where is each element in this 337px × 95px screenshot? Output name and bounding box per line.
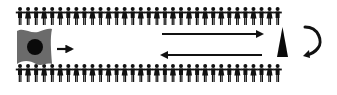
- woman-figure-icon: [56, 64, 64, 82]
- woman-figure-icon: [217, 64, 225, 82]
- man-figure-icon: [145, 64, 153, 82]
- man-figure-icon: [241, 7, 249, 25]
- woman-figure-icon: [137, 64, 145, 82]
- man-figure-icon: [129, 7, 137, 25]
- woman-figure-icon: [104, 7, 112, 25]
- man-figure-icon: [257, 7, 265, 25]
- woman-figure-icon: [40, 64, 48, 82]
- cell-with-nucleus-icon: [17, 29, 52, 65]
- woman-figure-icon: [120, 64, 128, 82]
- woman-figure-icon: [201, 64, 209, 82]
- man-figure-icon: [161, 64, 169, 82]
- bottom-row-of-figures: [16, 64, 282, 82]
- man-figure-icon: [129, 64, 137, 82]
- man-figure-icon: [241, 64, 249, 82]
- channel-diagram: [0, 0, 337, 95]
- woman-figure-icon: [24, 64, 32, 82]
- woman-figure-icon: [185, 7, 193, 25]
- man-figure-icon: [161, 7, 169, 25]
- woman-figure-icon: [249, 64, 257, 82]
- woman-figure-icon: [153, 64, 161, 82]
- woman-figure-icon: [104, 64, 112, 82]
- man-figure-icon: [48, 64, 56, 82]
- woman-figure-icon: [72, 7, 80, 25]
- woman-figure-icon: [169, 7, 177, 25]
- man-figure-icon: [48, 7, 56, 25]
- woman-figure-icon: [24, 7, 32, 25]
- man-figure-icon: [16, 64, 24, 82]
- man-figure-icon: [193, 7, 201, 25]
- woman-figure-icon: [169, 64, 177, 82]
- man-figure-icon: [80, 7, 88, 25]
- man-figure-icon: [273, 64, 281, 82]
- man-figure-icon: [145, 7, 153, 25]
- man-figure-icon: [96, 7, 104, 25]
- top-row-of-figures: [16, 7, 282, 25]
- man-figure-icon: [177, 64, 185, 82]
- man-figure-icon: [177, 7, 185, 25]
- man-figure-icon: [209, 64, 217, 82]
- man-figure-icon: [64, 64, 72, 82]
- man-figure-icon: [225, 7, 233, 25]
- man-figure-icon: [32, 64, 40, 82]
- man-figure-icon: [112, 7, 120, 25]
- woman-figure-icon: [249, 7, 257, 25]
- arrows-group: [57, 34, 262, 55]
- woman-figure-icon: [72, 64, 80, 82]
- woman-figure-icon: [120, 7, 128, 25]
- man-figure-icon: [257, 64, 265, 82]
- woman-figure-icon: [201, 7, 209, 25]
- man-figure-icon: [209, 7, 217, 25]
- woman-figure-icon: [88, 64, 96, 82]
- man-figure-icon: [193, 64, 201, 82]
- man-figure-icon: [112, 64, 120, 82]
- woman-figure-icon: [40, 7, 48, 25]
- woman-figure-icon: [137, 7, 145, 25]
- woman-figure-icon: [265, 7, 273, 25]
- curved-return-arrow-icon: [303, 27, 320, 58]
- man-figure-icon: [80, 64, 88, 82]
- woman-figure-icon: [153, 7, 161, 25]
- man-figure-icon: [273, 7, 281, 25]
- woman-figure-icon: [185, 64, 193, 82]
- woman-figure-icon: [56, 7, 64, 25]
- woman-figure-icon: [265, 64, 273, 82]
- man-figure-icon: [225, 64, 233, 82]
- woman-figure-icon: [233, 7, 241, 25]
- woman-figure-icon: [233, 64, 241, 82]
- woman-figure-icon: [88, 7, 96, 25]
- woman-figure-icon: [217, 7, 225, 25]
- triangle-marker-icon: [277, 27, 288, 57]
- diagram-canvas: [0, 0, 337, 95]
- man-figure-icon: [32, 7, 40, 25]
- cell-nucleus: [27, 39, 43, 55]
- man-figure-icon: [16, 7, 24, 25]
- man-figure-icon: [96, 64, 104, 82]
- man-figure-icon: [64, 7, 72, 25]
